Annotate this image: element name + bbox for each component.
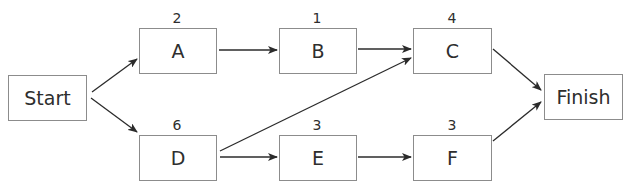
edge-f-finish	[493, 102, 541, 141]
node-e: E	[279, 135, 357, 181]
node-f: F	[413, 135, 492, 181]
node-label: Start	[24, 87, 70, 109]
node-label: F	[447, 147, 458, 169]
node-d: D	[139, 135, 217, 181]
node-start: Start	[8, 75, 87, 121]
duration-c: 4	[432, 10, 472, 26]
duration-a: 2	[157, 10, 197, 26]
duration-b: 1	[297, 10, 337, 26]
duration-e: 3	[297, 117, 337, 133]
node-a: A	[139, 28, 217, 74]
node-label: E	[312, 147, 324, 169]
node-label: Finish	[556, 86, 610, 108]
edge-c-finish	[493, 49, 541, 90]
edge-start-d	[91, 98, 137, 132]
duration-f: 3	[432, 117, 472, 133]
node-finish: Finish	[544, 74, 623, 120]
duration-d: 6	[157, 117, 197, 133]
node-label: B	[311, 40, 324, 62]
node-label: C	[446, 40, 459, 62]
node-b: B	[279, 28, 357, 74]
edge-start-a	[92, 59, 137, 92]
node-label: A	[172, 40, 185, 62]
node-label: D	[171, 147, 186, 169]
node-c: C	[413, 28, 492, 74]
